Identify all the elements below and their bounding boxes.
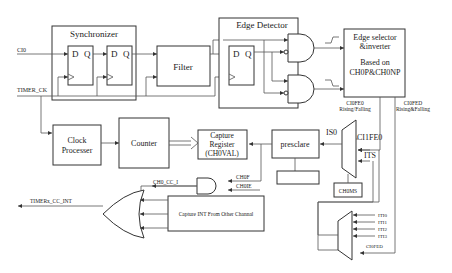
clock-processer-label-1: Clock	[67, 136, 86, 145]
edge-detector-label: Edge Detector	[236, 20, 288, 30]
counter-label: Counter	[131, 139, 157, 148]
ff2-d-label: D	[111, 49, 118, 59]
filter-label: Filter	[173, 62, 193, 72]
edge-selector-label-2: &inverter	[359, 42, 390, 51]
inverter-bubble	[284, 50, 288, 54]
edge-selector-label-3: Based on	[360, 58, 390, 67]
or-gate-interrupt	[103, 190, 144, 238]
timerx-cc-int-label: TIMERx_CC_INT	[30, 198, 73, 204]
capture-int-other-label: Capture INT From Other Channal	[179, 211, 254, 217]
clock-processer-label-2: Processer	[62, 146, 93, 155]
is0-label: IS0	[326, 128, 337, 137]
ch0ie-label: CH0IE	[236, 183, 252, 189]
capture-register-label-2: Register	[210, 140, 235, 149]
ch0f-label: CH0F	[236, 174, 249, 180]
and-gate-rising	[288, 34, 314, 62]
timer-capture-diagram: Synchronizer D Q D Q CI0 TIMER_CK Filter…	[0, 0, 452, 273]
presclare-label: presclare	[281, 140, 310, 149]
ch0-cc-i-label: CH0_CC_I	[153, 179, 178, 185]
ff1-d-label: D	[72, 49, 79, 59]
ff2-q-label: Q	[123, 49, 130, 59]
ff3-q-label: Q	[245, 49, 252, 59]
edge-selector-label-1: Edge selector	[353, 33, 397, 42]
ci0fe0-sub-label: Rising/Falling	[339, 106, 371, 112]
edge-detector-block: Edge Detector D Q	[219, 18, 314, 108]
inverter-bubble	[284, 91, 288, 95]
ci0fed-sub-label: Rising&Falling	[396, 106, 430, 112]
iti0-label: ITI0	[378, 213, 387, 218]
rising-edge-icon	[325, 37, 339, 43]
synchronizer-block: Synchronizer D Q D Q	[52, 26, 136, 100]
its-label: ITS	[364, 151, 376, 160]
trigger-select-mux	[338, 211, 352, 260]
iti3-label: ITI3	[378, 234, 387, 239]
iti2-label: ITI2	[378, 227, 387, 232]
clock-processer-block	[53, 125, 101, 165]
capture-register-label-3: (CH0VAL)	[205, 149, 239, 158]
iti1-label: ITI1	[378, 220, 387, 225]
ch0ms-label: CH0MS	[339, 188, 357, 194]
edge-selector-label-4: CH0P&CH0NP	[349, 68, 401, 77]
ci0-label: CI0	[17, 47, 26, 53]
and-gate-falling	[288, 75, 314, 103]
ff3-d-label: D	[233, 49, 240, 59]
capture-register-label-1: Capture	[210, 131, 234, 140]
ci0fed-mux-label: CI0FED	[366, 244, 383, 249]
bus-arrow-icon	[191, 137, 198, 149]
falling-edge-icon	[325, 80, 339, 86]
ff1-q-label: Q	[84, 49, 91, 59]
timer-ck-label: TIMER_CK	[17, 87, 48, 93]
synchronizer-label: Synchronizer	[70, 29, 118, 39]
input-select-mux	[342, 120, 356, 178]
ci1fe0-label: CI1FE0	[357, 133, 382, 142]
and-gate-interrupt	[197, 178, 216, 194]
ch0capppsc-block	[277, 171, 319, 184]
